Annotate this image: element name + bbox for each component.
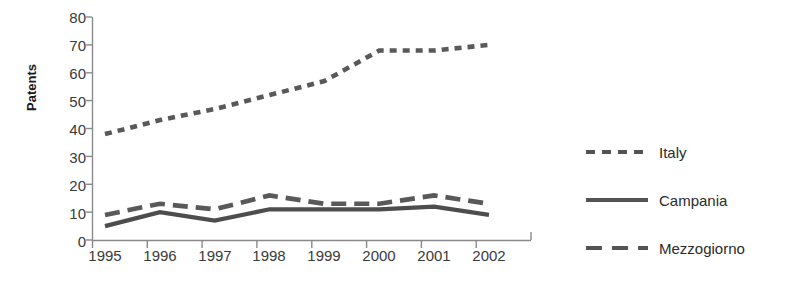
y-tick-label: 60 xyxy=(52,66,86,81)
y-tick-label: 80 xyxy=(52,10,86,25)
x-axis-tick-labels: 1995 1996 1997 1998 1999 2000 2001 2002 xyxy=(86,248,536,276)
legend-item-mezzogiorno[interactable]: Mezzogiorno xyxy=(586,238,745,258)
dotted-line-icon xyxy=(586,150,648,154)
y-axis-ticks xyxy=(86,17,92,240)
x-tick-label: 1999 xyxy=(294,248,354,263)
x-tick-label: 1998 xyxy=(239,248,299,263)
y-tick-label: 70 xyxy=(52,38,86,53)
legend-label: Mezzogiorno xyxy=(659,240,745,257)
y-tick-label: 40 xyxy=(52,122,86,137)
y-tick-label: 20 xyxy=(52,178,86,193)
y-tick-label: 10 xyxy=(52,206,86,221)
x-tick-label: 1997 xyxy=(185,248,245,263)
axis-lines xyxy=(92,17,531,241)
series-line-italy xyxy=(105,45,489,134)
solid-line-icon xyxy=(586,198,648,202)
chart-legend: Italy Campania Mezzogiorno xyxy=(586,142,786,272)
legend-item-campania[interactable]: Campania xyxy=(586,190,727,210)
legend-item-italy[interactable]: Italy xyxy=(586,142,687,162)
x-tick-label: 2002 xyxy=(459,248,519,263)
patents-line-chart: Patents 80 70 60 50 40 30 20 10 0 xyxy=(0,0,790,286)
y-axis-tick-labels: 80 70 60 50 40 30 20 10 0 xyxy=(46,0,86,286)
x-tick-label: 1995 xyxy=(75,248,135,263)
dashed-line-icon xyxy=(586,246,648,250)
y-tick-label: 30 xyxy=(52,150,86,165)
y-tick-label: 50 xyxy=(52,94,86,109)
series-line-campania xyxy=(105,207,489,227)
x-tick-label: 2001 xyxy=(404,248,464,263)
y-tick-label: 0 xyxy=(52,234,86,249)
x-tick-label: 2000 xyxy=(349,248,409,263)
x-tick-label: 1996 xyxy=(130,248,190,263)
legend-label: Campania xyxy=(659,192,727,209)
legend-label: Italy xyxy=(659,144,687,161)
y-axis-title: Patents xyxy=(24,33,39,143)
